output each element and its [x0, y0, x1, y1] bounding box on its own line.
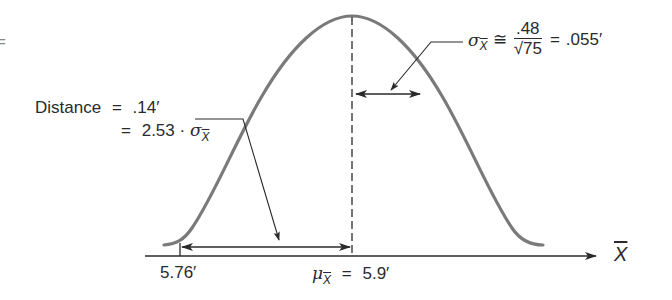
distance-se-multiple: 2.53 · — [142, 121, 185, 140]
mean-label: μX = 5.9′ — [312, 263, 389, 285]
mu-symbol: μ — [312, 263, 323, 283]
sigma-subscript: X — [202, 130, 210, 144]
tick-label-5-76: 5.76′ — [160, 263, 196, 283]
sigma-subscript: X — [480, 39, 488, 53]
mu-subscript: X — [323, 273, 331, 287]
mean-equals: = — [342, 264, 352, 283]
equals-sign: = — [550, 30, 560, 50]
std-error-leader-line — [391, 42, 463, 90]
sqrt-icon: √ — [514, 39, 523, 58]
distance-label-line1: Distance = .14′ — [35, 98, 159, 118]
fraction-numerator: .48 — [514, 20, 542, 39]
distance-eq-2: = — [121, 121, 131, 140]
fraction-denominator: √75 — [514, 39, 542, 59]
fraction: .48 √75 — [514, 20, 542, 59]
approx-sign: ≅ — [493, 30, 507, 50]
x-axis-label: X — [614, 244, 627, 264]
distance-eq: = — [112, 98, 122, 117]
std-error-value: .055′ — [566, 30, 602, 50]
mean-value: 5.9′ — [362, 264, 389, 283]
sigma-symbol: σ — [468, 30, 480, 50]
stray-mark: = — [0, 32, 6, 52]
distance-label-line2: = 2.53 · σX — [121, 120, 210, 142]
distance-value: .14′ — [133, 98, 160, 117]
std-error-label: σX ≅ .48 √75 = .055′ — [468, 20, 602, 59]
sigma-symbol: σ — [190, 120, 202, 140]
distance-word: Distance — [35, 98, 101, 117]
